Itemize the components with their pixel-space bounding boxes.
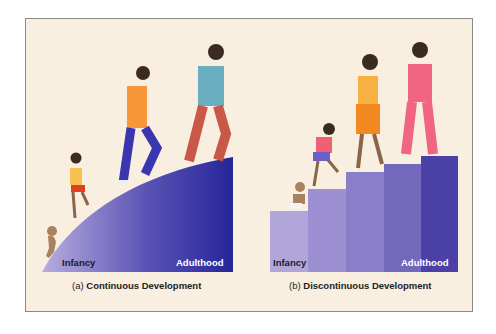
step-5 [421,156,458,272]
infancy-label-a: Infancy [62,257,95,268]
infancy-label-b: Infancy [273,257,306,268]
adulthood-label-a: Adulthood [176,257,223,268]
adult-figure-b [406,42,433,154]
child-figure-a [70,153,88,219]
caption-a-prefix: (a) [72,280,84,291]
toddler-figure-b [313,123,338,186]
caption-b: (b) Discontinuous Development [289,280,432,291]
caption-b-prefix: (b) [289,280,301,291]
step-2 [308,189,346,272]
teen-figure-b [356,54,382,168]
teen-figure-a [118,66,157,184]
step-3 [346,172,384,272]
step-4 [384,164,421,272]
caption-a-title: Continuous Development [86,280,201,291]
adult-figure-a [189,44,226,161]
adulthood-label-b: Adulthood [401,257,448,268]
caption-a: (a) Continuous Development [72,280,201,291]
baby-figure-b [290,182,305,209]
caption-b-title: Discontinuous Development [303,280,431,291]
